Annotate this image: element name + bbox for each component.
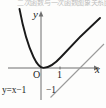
x-axis-label: x [95,64,100,75]
math-figure: 二次函数与一次函数图象关系图示 y x O 1 y=x−1 −1 [0,0,106,108]
series-parabola [20,9,101,68]
y-intercept-label: −1 [46,85,56,95]
x-tick-label-1: 1 [57,70,62,80]
y-axis-label: y [33,9,38,20]
y-axis-arrow-icon [39,11,44,17]
line-equation-label: y=x−1 [2,85,26,95]
origin-label: O [33,70,40,80]
